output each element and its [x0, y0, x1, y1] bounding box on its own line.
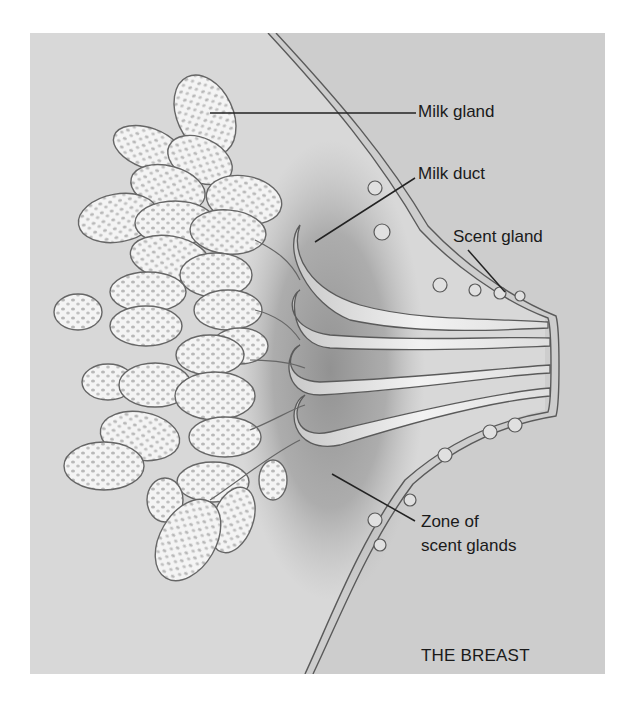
label-zone-line1: Zone of: [421, 511, 479, 532]
label-scent-gland: Scent gland: [453, 226, 543, 247]
label-milk-duct: Milk duct: [418, 163, 485, 184]
figure-title: THE BREAST: [421, 646, 530, 666]
diagram-panel: [30, 33, 605, 674]
label-milk-gland: Milk gland: [418, 101, 495, 122]
breast-anatomy-illustration: [30, 33, 605, 674]
label-zone-line2: scent glands: [421, 535, 516, 556]
